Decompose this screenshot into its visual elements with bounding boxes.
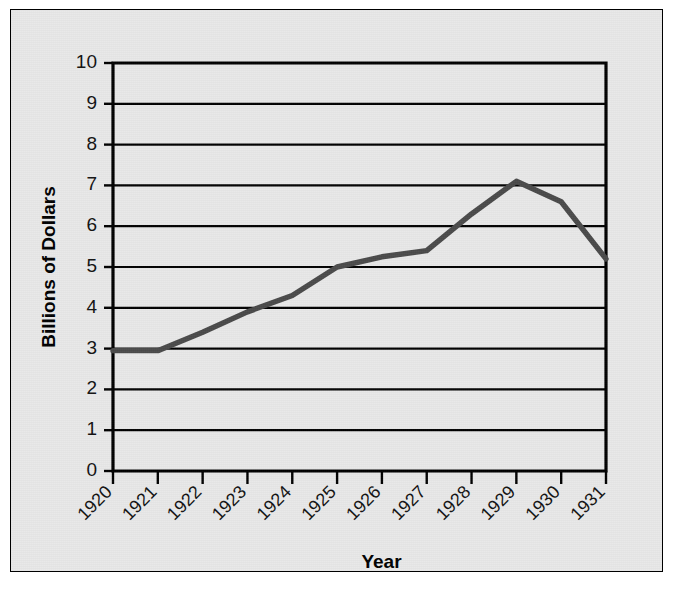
y-tick-label: 8	[86, 133, 97, 154]
y-tick-label: 7	[86, 173, 97, 194]
y-tick-label: 2	[86, 377, 97, 398]
x-axis-title: Year	[361, 551, 402, 570]
figure-frame: 012345678910 192019211922192319241925192…	[10, 9, 663, 572]
y-tick-label: 1	[86, 418, 97, 439]
y-tick-label: 3	[86, 337, 97, 358]
x-tick-label: 1927	[387, 482, 429, 524]
x-tick-label: 1928	[432, 482, 474, 524]
y-tick-label: 9	[86, 92, 97, 113]
x-tick-labels-group: 1920192119221923192419251926192719281929…	[73, 482, 608, 524]
x-tick-label: 1920	[73, 482, 115, 524]
y-tick-label: 6	[86, 214, 97, 235]
y-tick-label: 0	[86, 459, 97, 480]
x-tick-label: 1929	[477, 482, 519, 524]
y-tick-label: 5	[86, 255, 97, 276]
x-tick-label: 1924	[253, 482, 295, 524]
x-tick-label: 1923	[208, 482, 250, 524]
x-tick-label: 1931	[566, 482, 608, 524]
y-tick-labels-group: 012345678910	[76, 51, 98, 480]
y-tick-label: 4	[86, 296, 97, 317]
y-axis-title: Billions of Dollars	[38, 186, 59, 348]
x-tick-label: 1930	[522, 482, 564, 524]
x-tick-label: 1926	[342, 482, 384, 524]
x-tick-label: 1922	[163, 482, 205, 524]
chart-page: 012345678910 192019211922192319241925192…	[0, 0, 676, 601]
x-tick-label: 1925	[297, 482, 339, 524]
x-tick-marks-group	[113, 471, 606, 484]
line-chart: 012345678910 192019211922192319241925192…	[11, 10, 661, 570]
y-tick-label: 10	[76, 51, 97, 72]
x-tick-label: 1921	[118, 482, 160, 524]
gridlines-group	[104, 63, 606, 471]
